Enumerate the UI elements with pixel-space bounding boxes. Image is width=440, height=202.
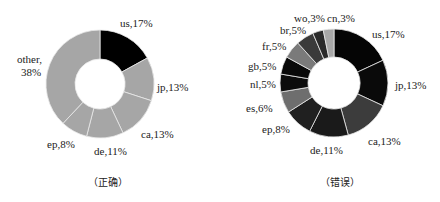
label-de: de,11% — [94, 145, 127, 157]
label-us: us,17% — [372, 28, 405, 40]
label-jp: jp,13% — [394, 79, 426, 91]
donut-chart-correct — [46, 30, 154, 138]
label-gb: gb,5% — [248, 60, 276, 72]
donut-chart-incorrect — [280, 29, 388, 137]
label-wo: wo,3% — [294, 12, 325, 24]
caption-incorrect: （错误） — [320, 176, 360, 188]
caption-correct: （正确） — [88, 176, 128, 188]
label-ca: ca,13% — [141, 128, 174, 140]
label-nl: nl,5% — [250, 78, 276, 90]
chart-canvas: us,17% jp,13% ca,13% de,11% ep,8% other,… — [0, 0, 440, 202]
label-de: de,11% — [310, 144, 343, 156]
label-fr: fr,5% — [262, 40, 286, 52]
label-ep: ep,8% — [262, 123, 290, 135]
label-jp: jp,13% — [156, 81, 188, 93]
label-other-pct: 38% — [21, 66, 41, 78]
label-ca: ca,13% — [368, 135, 401, 147]
label-us: us,17% — [120, 17, 153, 29]
label-es: es,6% — [246, 102, 273, 114]
label-cn: cn,3% — [327, 12, 355, 24]
label-ep: ep,8% — [47, 138, 75, 150]
label-other: other, — [17, 53, 42, 65]
label-br: br,5% — [280, 24, 306, 36]
